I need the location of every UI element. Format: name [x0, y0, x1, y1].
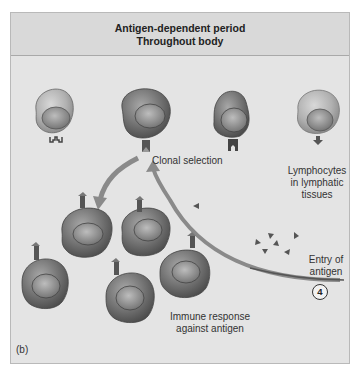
receptor-forked	[50, 137, 62, 142]
cell-lymphocyte-3	[214, 91, 249, 151]
label-lymphocytes-line1: Lymphocytes	[282, 165, 352, 177]
clone-cell-1	[62, 192, 112, 257]
cell-lymphocyte-selected	[122, 89, 170, 152]
label-clonal-selection: Clonal selection	[152, 155, 242, 167]
clone-cell-2	[122, 196, 170, 256]
label-lymphocytes-line2: in lymphatic	[282, 177, 352, 189]
label-entry-line2: antigen	[302, 266, 350, 278]
label-immune-line2: against antigen	[160, 323, 260, 335]
arrow-clonal-expansion	[93, 158, 138, 210]
cell-lymphocyte-1	[36, 89, 73, 142]
label-lymphocytes-line3: tissues	[282, 189, 352, 201]
step-number-badge: 4	[312, 284, 328, 300]
label-entry-line1: Entry of	[302, 254, 350, 266]
label-entry-of-antigen: Entry of antigen	[302, 254, 350, 278]
label-immune-response: Immune response against antigen	[160, 311, 260, 335]
clone-cell-4	[106, 258, 154, 323]
label-lymphocytes: Lymphocytes in lymphatic tissues	[282, 165, 352, 201]
label-immune-line1: Immune response	[160, 311, 260, 323]
antigen-particles	[193, 203, 299, 255]
cell-lymphocyte-4	[298, 90, 340, 145]
panel-label: (b)	[16, 344, 28, 355]
clone-cell-3	[22, 242, 68, 309]
